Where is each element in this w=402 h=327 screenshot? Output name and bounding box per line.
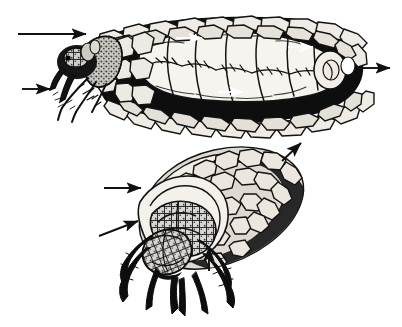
panel-lateral-cutaway bbox=[18, 16, 390, 138]
case-posterior-opening bbox=[341, 57, 355, 75]
pen-and-ink-drawing bbox=[0, 0, 402, 327]
illustration-figure: Caddisfly larva in portable stone case bbox=[0, 0, 402, 327]
